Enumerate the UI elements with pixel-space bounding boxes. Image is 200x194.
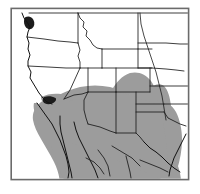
range-map-figure: Distribution range map Western and south… (0, 0, 200, 194)
map-canvas (0, 0, 200, 194)
